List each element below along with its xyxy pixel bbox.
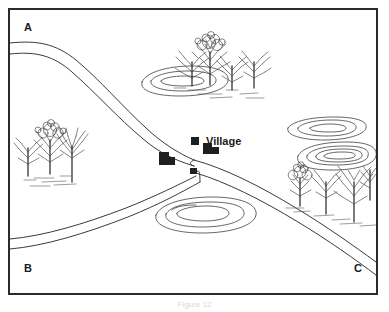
trees-east bbox=[286, 162, 376, 226]
village-label: Village bbox=[206, 136, 241, 147]
corner-label-c: C bbox=[354, 263, 362, 274]
mound-e bbox=[298, 142, 376, 170]
mound-ne bbox=[288, 117, 367, 140]
map-drawing: .ln{fill:none;stroke:#3a3a3a;stroke-widt… bbox=[10, 10, 376, 293]
trees-west bbox=[14, 120, 88, 187]
road-c bbox=[194, 160, 376, 275]
map-frame: .ln{fill:none;stroke:#3a3a3a;stroke-widt… bbox=[8, 8, 378, 295]
road-b bbox=[10, 176, 200, 249]
mound-s bbox=[156, 197, 256, 233]
building-2 bbox=[191, 137, 199, 145]
figure-caption: Figure 12 bbox=[0, 300, 389, 312]
corner-label-b: B bbox=[24, 263, 32, 274]
road-a bbox=[10, 42, 194, 166]
building-1 bbox=[159, 152, 175, 165]
building-4 bbox=[190, 168, 197, 174]
figure-root: .ln{fill:none;stroke:#3a3a3a;stroke-widt… bbox=[0, 0, 389, 312]
corner-label-a: A bbox=[24, 22, 32, 33]
